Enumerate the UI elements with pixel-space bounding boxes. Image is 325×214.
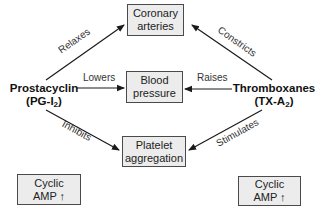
blood-pressure-line2: pressure [133, 87, 176, 100]
platelet-aggregation-box: Platelet aggregation [122, 136, 186, 167]
coronary-arteries-box: Coronary arteries [127, 4, 184, 36]
label-raises: Raises [197, 72, 228, 83]
thromboxanes-name: Thromboxanes [231, 82, 317, 95]
cyclic-amp-right-box: Cyclic AMP ↑ [238, 176, 301, 206]
prostacyclin-node: Prostacyclin (PG-I2) [6, 82, 82, 108]
cyclic-amp-left-box: Cyclic AMP ↑ [17, 174, 81, 205]
coronary-line1: Coronary [133, 7, 178, 20]
camp-left-line2: AMP ↑ [33, 190, 65, 203]
prostacyclin-abbr: (PG-I2) [6, 95, 82, 108]
prostacyclin-thromboxane-diagram: Coronary arteries Blood pressure Platele… [0, 0, 325, 214]
platelet-line1: Platelet [136, 139, 173, 152]
prostacyclin-name: Prostacyclin [6, 82, 82, 95]
platelet-line2: aggregation [125, 152, 183, 165]
blood-pressure-box: Blood pressure [126, 71, 183, 103]
camp-right-line1: Cyclic [255, 178, 284, 191]
camp-left-line1: Cyclic [34, 177, 63, 190]
camp-right-line2: AMP ↑ [253, 191, 285, 204]
label-lowers: Lowers [83, 72, 115, 83]
thromboxanes-abbr: (TX-A2) [231, 95, 317, 108]
blood-pressure-line1: Blood [140, 74, 168, 87]
coronary-line2: arteries [137, 20, 174, 33]
thromboxanes-node: Thromboxanes (TX-A2) [231, 82, 317, 108]
